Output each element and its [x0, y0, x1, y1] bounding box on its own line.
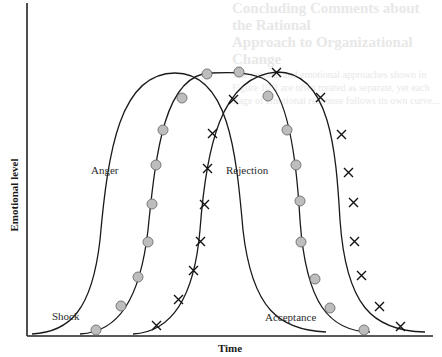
curve-crosses: [133, 72, 425, 334]
x-axis-label: Time: [218, 342, 242, 354]
y-axis-label: Emotional level: [8, 158, 20, 231]
label-anger: Anger: [91, 164, 119, 176]
cross-markers: [152, 68, 405, 331]
label-shock: Shock: [52, 310, 80, 322]
label-rejection: Rejection: [226, 164, 269, 176]
label-acceptance: Acceptance: [265, 311, 316, 323]
curve-circles: [80, 73, 370, 334]
curve-plain: [32, 73, 326, 334]
